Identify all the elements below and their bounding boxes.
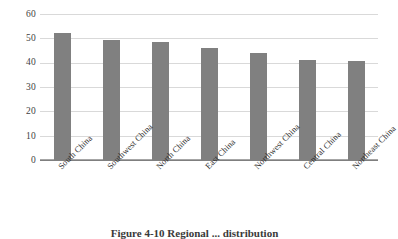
y-axis-tick-50: 50 xyxy=(2,33,36,43)
y-axis-tick-30: 30 xyxy=(2,82,36,92)
bar-northwest-china xyxy=(250,53,267,160)
gridline-60 xyxy=(40,14,378,15)
y-axis-tick-20: 20 xyxy=(2,106,36,116)
bar-central-china xyxy=(299,60,316,160)
y-axis-tick-40: 40 xyxy=(2,57,36,67)
gridline-50 xyxy=(40,38,378,39)
bar-southwest-china xyxy=(103,40,120,160)
y-axis-tick-0: 0 xyxy=(2,155,36,165)
figure-caption: Figure 4-10 Regional ... distribution xyxy=(0,227,389,239)
y-axis-tick-60: 60 xyxy=(2,9,36,19)
bar-north-china xyxy=(152,42,169,160)
bar-east-china xyxy=(201,48,218,160)
bar-northeast-china xyxy=(348,61,365,160)
x-axis-tick-labels: South China Southwest China North China … xyxy=(40,160,378,230)
y-axis-tick-10: 10 xyxy=(2,131,36,141)
bar-south-china xyxy=(54,33,71,160)
y-axis-tick-labels: 60 50 40 30 20 10 0 xyxy=(0,0,36,235)
